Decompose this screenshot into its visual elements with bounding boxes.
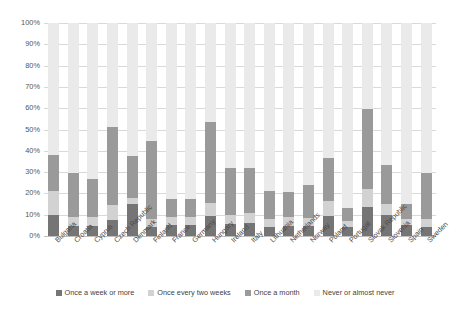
bar-segment (166, 199, 177, 217)
plot-area (44, 23, 436, 236)
y-axis-tick-label: 70% (0, 83, 40, 91)
bar-column (64, 23, 84, 236)
stacked-bar (127, 23, 138, 236)
bar-segment (264, 191, 275, 219)
bar-segment (185, 199, 196, 217)
bar-column (338, 23, 358, 236)
bar-column (416, 23, 436, 236)
stacked-bar (381, 23, 392, 236)
legend-label: Once a week or more (65, 288, 135, 297)
stacked-bar (342, 23, 353, 236)
bar-segment (225, 168, 236, 215)
bar-column (83, 23, 103, 236)
bar-segment (205, 122, 216, 203)
x-axis-labels: BulgariaCroatiaCyprusCzech RepublicDenma… (44, 238, 436, 284)
bar-column (220, 23, 240, 236)
bar-segment (205, 23, 216, 122)
stacked-bar (87, 23, 98, 236)
bar-segment (421, 173, 432, 219)
bar-column (122, 23, 142, 236)
bar-segment (107, 127, 118, 205)
y-axis-tick-label: 90% (0, 40, 40, 48)
y-axis-tick-label: 100% (0, 19, 40, 27)
bar-segment (146, 23, 157, 141)
stacked-bar (225, 23, 236, 236)
y-axis-tick-label: 10% (0, 211, 40, 219)
bar-segment (381, 165, 392, 204)
bar-column (162, 23, 182, 236)
bar-segment (362, 23, 373, 109)
bar-segment (68, 23, 79, 173)
stacked-bar (303, 23, 314, 236)
stacked-bar (185, 23, 196, 236)
y-axis-tick-label: 40% (0, 147, 40, 155)
bar-segment (362, 189, 373, 207)
bar-column (358, 23, 378, 236)
bar-segment (323, 201, 334, 216)
bar-segment (48, 155, 59, 191)
bar-segment (342, 208, 353, 221)
bar-segment (225, 23, 236, 168)
bar-segment (421, 23, 432, 173)
bar-segment (244, 168, 255, 213)
y-axis-tick-label: 50% (0, 126, 40, 134)
legend-swatch-icon (314, 290, 320, 296)
stacked-bar (362, 23, 373, 236)
bar-segment (107, 205, 118, 220)
bar-segment (323, 23, 334, 158)
bar-column (44, 23, 64, 236)
bar-segment (185, 23, 196, 199)
bar-segment (421, 219, 432, 228)
stacked-bar (244, 23, 255, 236)
bar-column (103, 23, 123, 236)
bar-column (279, 23, 299, 236)
bar-segment (87, 23, 98, 178)
bar-segment (264, 23, 275, 191)
stacked-bar (323, 23, 334, 236)
bar-segment (244, 23, 255, 168)
legend-swatch-icon (245, 290, 251, 296)
stacked-bar (421, 23, 432, 236)
bar-series-container (44, 23, 436, 236)
stacked-bar (107, 23, 118, 236)
y-axis-tick-label: 20% (0, 189, 40, 197)
chart-legend: Once a week or moreOnce every two weeksO… (0, 288, 450, 297)
y-axis-tick-label: 80% (0, 62, 40, 70)
stacked-bar (283, 23, 294, 236)
y-axis-tick-label: 30% (0, 168, 40, 176)
bar-column (240, 23, 260, 236)
bar-column (299, 23, 319, 236)
bar-segment (244, 213, 255, 224)
y-axis-tick-label: 60% (0, 104, 40, 112)
stacked-bar-chart: 100%90%80%70%60%50%40%30%20%10%0% Bulgar… (0, 0, 450, 318)
legend-label: Once a month (254, 288, 300, 297)
bar-segment (283, 192, 294, 216)
stacked-bar (205, 23, 216, 236)
legend-label: Once every two weeks (157, 288, 230, 297)
stacked-bar (48, 23, 59, 236)
bar-column (201, 23, 221, 236)
legend-item[interactable]: Once a month (245, 288, 300, 297)
bar-segment (127, 23, 138, 156)
bar-segment (401, 23, 412, 204)
legend-swatch-icon (56, 290, 62, 296)
bar-segment (323, 158, 334, 201)
legend-item[interactable]: Once every two weeks (148, 288, 230, 297)
bar-column (318, 23, 338, 236)
bar-segment (283, 23, 294, 192)
bar-segment (381, 23, 392, 165)
bar-segment (342, 23, 353, 208)
bar-segment (87, 179, 98, 217)
bar-segment (166, 23, 177, 199)
bar-segment (48, 191, 59, 214)
bar-segment (127, 156, 138, 198)
legend-swatch-icon (148, 290, 154, 296)
bar-segment (205, 203, 216, 216)
legend-item[interactable]: Never or almost never (314, 288, 395, 297)
legend-item[interactable]: Once a week or more (56, 288, 135, 297)
stacked-bar (68, 23, 79, 236)
bar-segment (48, 23, 59, 155)
bar-column (260, 23, 280, 236)
legend-label: Never or almost never (323, 288, 395, 297)
y-axis-labels: 100%90%80%70%60%50%40%30%20%10%0% (0, 0, 40, 236)
